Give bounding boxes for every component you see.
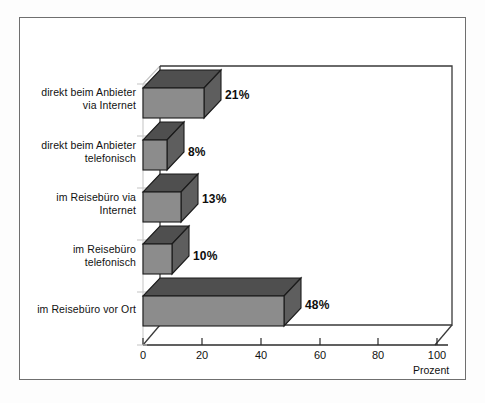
x-tick-label: 20 (182, 349, 222, 361)
x-tick-label: 40 (241, 349, 281, 361)
category-label: im Reisebüro vor Ort (26, 303, 136, 316)
x-axis-title: Prozent (413, 364, 449, 376)
bar-value-label: 10% (193, 249, 218, 263)
category-label: direkt beim Anbieter telefonisch (26, 139, 136, 165)
bar-value-label: 21% (225, 88, 250, 102)
bar-3d (143, 226, 189, 274)
bar-value-label: 48% (305, 298, 330, 312)
chart-screenshot: direkt beim Anbieter via Internet direkt… (0, 0, 485, 403)
category-label: direkt beim Anbieter via Internet (26, 86, 136, 112)
category-label: im Reisebüro telefonisch (26, 243, 136, 269)
bar-value-label: 8% (188, 145, 206, 159)
bar-chart-3d: direkt beim Anbieter via Internet direkt… (0, 0, 485, 403)
category-label: im Reisebüro via Internet (26, 191, 136, 217)
bar-3d (143, 174, 198, 222)
x-tick-label: 100 (417, 349, 457, 361)
depth-edge-bottom-left (143, 325, 160, 345)
bar-3d (143, 70, 221, 118)
bar-value-label: 13% (202, 192, 227, 206)
x-tick-label: 0 (123, 349, 163, 361)
x-tick-label: 60 (300, 349, 340, 361)
x-tick-label: 80 (358, 349, 398, 361)
bar-3d (143, 122, 184, 170)
bar-3d (143, 278, 301, 326)
x-axis-ticks (143, 338, 437, 345)
